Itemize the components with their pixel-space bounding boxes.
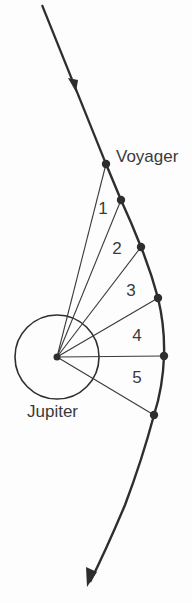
voyager-position-2 [117, 196, 125, 204]
trajectory-curve [90, 164, 164, 582]
voyager-position-5 [160, 352, 168, 360]
sector-label-3: 3 [126, 282, 135, 299]
voyager-position-3 [137, 243, 145, 251]
voyager-position-6 [150, 411, 158, 419]
diagram-svg [0, 0, 192, 603]
jupiter-label: Jupiter [27, 403, 78, 420]
diagram-canvas: Voyager Jupiter 1 2 3 4 5 [0, 0, 192, 603]
sector-label-1: 1 [98, 200, 107, 217]
radius-lines [57, 164, 164, 415]
jupiter-center-dot [54, 354, 61, 361]
sector-label-5: 5 [132, 369, 141, 386]
sector-label-2: 2 [112, 240, 121, 257]
sector-label-4: 4 [132, 327, 141, 344]
voyager-position-1 [102, 160, 110, 168]
voyager-position-4 [154, 294, 162, 302]
voyager-label: Voyager [116, 148, 178, 165]
